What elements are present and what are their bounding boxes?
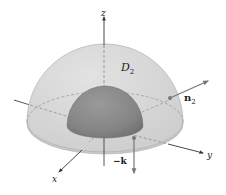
x-axis bbox=[59, 150, 82, 172]
region-label-main: D bbox=[120, 61, 130, 74]
surface-diagram: z y x D2 n2 −k bbox=[0, 0, 226, 195]
negative-y-axis-line bbox=[14, 100, 30, 105]
normal-label-subscript: 2 bbox=[191, 98, 195, 106]
neg-k-label: −k bbox=[113, 156, 128, 166]
z-axis-label: z bbox=[100, 8, 106, 18]
region-label-subscript: 2 bbox=[130, 68, 134, 76]
y-axis bbox=[168, 144, 203, 153]
y-axis-label: y bbox=[206, 150, 213, 160]
normal-label: n2 bbox=[184, 92, 196, 106]
x-axis-label: x bbox=[52, 174, 57, 184]
